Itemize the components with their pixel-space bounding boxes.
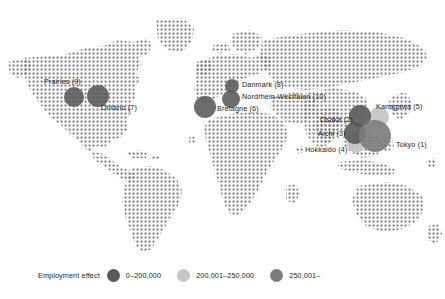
label-tokyo: Tokyo (1) (396, 141, 427, 149)
legend-item-low[interactable]: 0–200,000 (107, 269, 161, 282)
bubble-map-figure: Prairies (9) Ontario (7) Bretagne (6) Da… (0, 0, 445, 299)
legend-label-mid: 200,001–250,000 (196, 271, 254, 280)
legend-label-low: 0–200,000 (126, 271, 161, 280)
label-aichi: Aichi (3) (318, 130, 346, 138)
world-map-plot: Prairies (9) Ontario (7) Bretagne (6) Da… (0, 0, 445, 258)
bubble-prairies[interactable] (64, 87, 84, 107)
legend-swatch-mid-icon (177, 269, 190, 282)
legend: Employment effect 0–200,000 200,001–250,… (0, 258, 445, 299)
legend-item-high[interactable]: 250,001– (270, 269, 320, 282)
label-ontario: Ontario (7) (101, 104, 137, 112)
legend-swatch-high-icon (270, 269, 283, 282)
label-osaka: Osaka (2) (320, 116, 353, 124)
label-nordrhein-westfalen: Nordrhein-Westfalen (10) (242, 93, 326, 101)
legend-swatch-low-icon (107, 269, 120, 282)
label-prairies: Prairies (9) (44, 78, 81, 86)
label-kanagawa: Kanagawa (5) (376, 103, 422, 111)
legend-label-high: 250,001– (289, 271, 320, 280)
label-danmark: Danmark (8) (242, 81, 284, 89)
legend-title: Employment effect (38, 271, 100, 280)
legend-item-mid[interactable]: 200,001–250,000 (177, 269, 254, 282)
label-hokkaido: Hokkaido (4) (305, 146, 347, 154)
bubble-tokyo[interactable] (359, 120, 391, 152)
bubble-bretagne[interactable] (194, 96, 216, 118)
label-bretagne: Bretagne (6) (217, 105, 259, 113)
